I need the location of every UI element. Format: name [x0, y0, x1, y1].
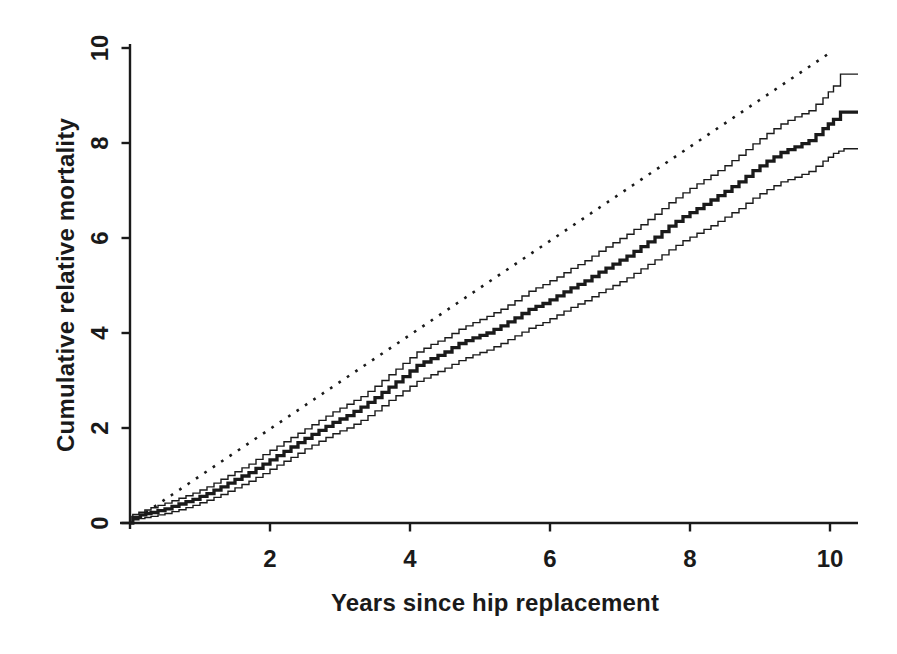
x-tick-label: 6: [543, 545, 556, 572]
x-tick-label: 8: [683, 545, 696, 572]
y-axis-title: Cumulative relative mortality: [52, 118, 80, 452]
x-tick-label: 10: [817, 545, 844, 572]
y-tick-label: 10: [86, 35, 113, 62]
y-tick-label: 8: [86, 136, 113, 149]
y-tick-label: 6: [86, 231, 113, 244]
plot-canvas: 2468100246810: [0, 0, 897, 654]
point-estimate-curve: [130, 112, 858, 523]
y-tick-label: 2: [86, 421, 113, 434]
y-tick-label: 4: [86, 326, 113, 340]
x-tick-label: 4: [403, 545, 417, 572]
reference-dotted-line: [130, 53, 830, 523]
x-axis-title: Years since hip replacement: [331, 589, 659, 617]
upper-confidence-band-curve: [130, 74, 858, 523]
y-tick-label: 0: [86, 516, 113, 529]
lower-confidence-band-curve: [130, 149, 858, 523]
x-tick-label: 2: [263, 545, 276, 572]
scanned-figure-page: 2468100246810 Cumulative relative mortal…: [0, 0, 897, 654]
